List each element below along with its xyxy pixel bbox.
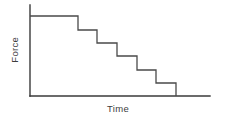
- x-axis-label: Time: [0, 104, 225, 114]
- force-step-series: [30, 16, 176, 96]
- series-group: [30, 16, 176, 96]
- y-axis-label: Force: [10, 20, 20, 80]
- force-time-step-chart: Force Time: [0, 0, 225, 123]
- axes-group: [30, 5, 210, 96]
